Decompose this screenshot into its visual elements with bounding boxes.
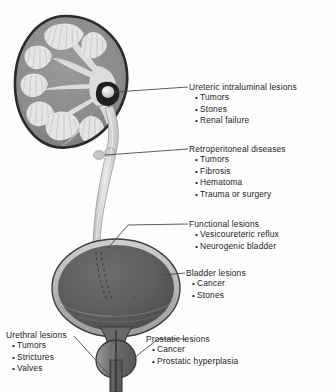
callout-heading: Ureteric intraluminal lesions [189, 82, 297, 92]
list-item: Trauma or surgery [195, 189, 286, 200]
list-item: Renal failure [195, 115, 297, 126]
list-item: Prostatic hyperplasia [152, 356, 238, 367]
bladder [52, 239, 180, 337]
list-item: Stones [195, 104, 297, 115]
callout-functional-lesions: Functional lesions Vesicoureteric reflux… [189, 219, 279, 252]
callout-heading: Bladder lesions [186, 268, 246, 278]
callout-urethral-lesions: Urethral lesions Tumors Strictures Valve… [6, 330, 67, 375]
callout-heading: Retroperitoneal diseases [189, 144, 286, 154]
figure-canvas: Ureteric intraluminal lesions Tumors Sto… [0, 0, 336, 392]
list-item: Hematoma [195, 177, 286, 188]
callout-heading: Urethral lesions [6, 330, 67, 340]
callout-heading: Functional lesions [189, 219, 279, 229]
list-item: Tumors [12, 340, 67, 351]
prostate-urethra [96, 327, 136, 392]
list-item: Neurogenic bladder [195, 241, 279, 252]
callout-retroperitoneal-diseases: Retroperitoneal diseases Tumors Fibrosis… [189, 144, 286, 200]
leader-retroperitoneal [105, 149, 188, 155]
list-item: Fibrosis [195, 166, 286, 177]
list-item: Vesicoureteric reflux [195, 229, 279, 240]
callout-list: Tumors Fibrosis Hematoma Trauma or surge… [189, 154, 286, 200]
list-item: Tumors [195, 92, 297, 103]
callout-heading: Prostatic lesions [146, 334, 238, 344]
list-item: Cancer [192, 278, 246, 289]
list-item: Strictures [12, 352, 67, 363]
callout-bladder-lesions: Bladder lesions Cancer Stones [186, 268, 246, 301]
list-item: Valves [12, 363, 67, 374]
callout-list: Tumors Strictures Valves [6, 340, 67, 374]
list-item: Stones [192, 290, 246, 301]
callout-list: Vesicoureteric reflux Neurogenic bladder [189, 229, 279, 252]
kidney [10, 10, 140, 155]
callout-list: Cancer Stones [186, 278, 246, 301]
callout-list: Cancer Prostatic hyperplasia [146, 344, 238, 367]
callout-prostatic-lesions: Prostatic lesions Cancer Prostatic hyper… [146, 334, 238, 367]
callout-list: Tumors Stones Renal failure [189, 92, 297, 126]
list-item: Tumors [195, 154, 286, 165]
callout-ureteric-lesions: Ureteric intraluminal lesions Tumors Sto… [189, 82, 297, 127]
list-item: Cancer [152, 344, 238, 355]
